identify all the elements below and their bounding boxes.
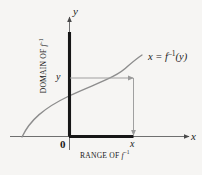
y-axis-label: y	[73, 6, 78, 17]
range-label-exponent: –1	[124, 149, 130, 155]
range-label-text: RANGE OF	[80, 151, 121, 160]
figure-canvas	[0, 0, 202, 175]
domain-label-exponent: –1	[38, 38, 44, 44]
range-axis-label: RANGE OF f–1	[80, 152, 130, 160]
x-tick-label: x	[130, 139, 134, 149]
curve-label-lhs: x =	[148, 51, 165, 62]
domain-label-function: f	[39, 44, 48, 46]
inverse-function-figure: y x 0 y x DOMAIN OF f–1 RANGE OF f–1 x =…	[0, 0, 202, 175]
origin-label: 0	[60, 139, 66, 150]
curve-equation-label: x = f–1(y)	[148, 52, 187, 63]
x-axis-label: x	[191, 131, 196, 142]
domain-label-text: DOMAIN OF	[39, 47, 48, 94]
curve-label-argument: (y)	[175, 51, 187, 62]
y-tick-label: y	[56, 72, 60, 82]
domain-axis-label: DOMAIN OF f–1	[40, 18, 48, 114]
